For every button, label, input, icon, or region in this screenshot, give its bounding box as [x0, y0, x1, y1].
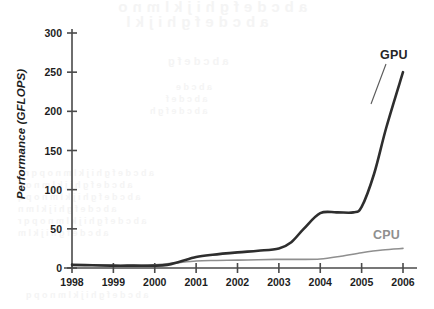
chart-figure: a b c d e f g h i j k l m n o a b c d e … — [0, 0, 434, 309]
series-label-cpu: CPU — [373, 228, 400, 242]
series-label-gpu: GPU — [380, 48, 408, 62]
series-line-gpu — [72, 72, 403, 266]
plot-area — [0, 0, 434, 309]
gpu-label-leader — [371, 64, 386, 104]
